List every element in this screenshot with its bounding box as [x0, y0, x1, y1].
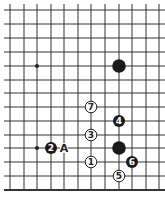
move-number: 1 — [88, 157, 94, 167]
black-stone-6: 6 — [126, 156, 138, 168]
black-stone — [112, 59, 126, 73]
white-stone-3: 3 — [85, 129, 97, 141]
move-number: 5 — [116, 171, 122, 181]
black-stone-2: 2 — [45, 142, 57, 154]
move-number: 6 — [129, 157, 135, 167]
move-number: 4 — [116, 116, 122, 126]
board-grid — [4, 4, 165, 190]
white-stone-7: 7 — [85, 101, 97, 113]
label-a: A — [60, 142, 69, 155]
star-point — [35, 64, 39, 68]
black-stone — [112, 141, 126, 155]
move-number: 3 — [88, 130, 94, 140]
move-number: 7 — [88, 102, 94, 112]
move-number: 2 — [48, 143, 54, 153]
white-stone-5: 5 — [113, 170, 125, 182]
star-point — [35, 146, 39, 150]
black-stone-4: 4 — [113, 115, 125, 127]
go-board-diagram: 1234567 A — [0, 0, 165, 202]
markers: A — [60, 142, 69, 155]
white-stone-1: 1 — [85, 156, 97, 168]
